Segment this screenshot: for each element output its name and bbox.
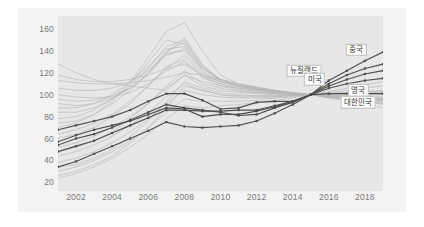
series-marker[interactable]	[328, 87, 330, 89]
series-marker[interactable]	[183, 125, 185, 127]
series-marker[interactable]	[382, 63, 383, 65]
series-marker[interactable]	[292, 103, 294, 105]
series-marker[interactable]	[364, 79, 366, 81]
series-marker[interactable]	[364, 60, 366, 62]
series-label-미국[interactable]: 미국	[304, 73, 325, 86]
series-marker[interactable]	[111, 124, 113, 126]
series-marker[interactable]	[58, 144, 59, 146]
series-marker[interactable]	[328, 79, 330, 81]
series-marker[interactable]	[256, 110, 258, 112]
series-marker[interactable]	[274, 112, 276, 114]
series-marker[interactable]	[165, 107, 167, 109]
y-tick-label: 20	[20, 178, 54, 187]
series-marker[interactable]	[201, 126, 203, 128]
series-marker[interactable]	[129, 137, 131, 139]
series-marker[interactable]	[147, 100, 149, 102]
series-marker[interactable]	[58, 129, 59, 131]
series-marker[interactable]	[147, 113, 149, 115]
x-tick-label: 2010	[211, 193, 231, 202]
series-marker[interactable]	[382, 51, 383, 53]
y-axis: 20406080100120140160	[16, 16, 54, 191]
series-marker[interactable]	[93, 129, 95, 131]
series-marker[interactable]	[111, 126, 113, 128]
series-label-대한민국[interactable]: 대한민국	[340, 96, 375, 109]
series-marker[interactable]	[93, 133, 95, 135]
series-marker[interactable]	[183, 93, 185, 95]
x-tick-label: 2004	[102, 193, 122, 202]
series-marker[interactable]	[93, 153, 95, 155]
series-marker[interactable]	[237, 113, 239, 115]
x-tick-label: 2016	[319, 193, 339, 202]
x-axis: 200220042006200820102012201420162018	[58, 193, 383, 209]
background-series-group	[58, 23, 383, 178]
series-marker[interactable]	[310, 94, 312, 96]
x-tick-label: 2006	[138, 193, 158, 202]
series-label-중국[interactable]: 중국	[346, 44, 367, 57]
series-marker[interactable]	[75, 160, 77, 162]
series-marker[interactable]	[147, 130, 149, 132]
series-marker[interactable]	[129, 120, 131, 122]
series-marker[interactable]	[183, 108, 185, 110]
series-label-영국[interactable]: 영국	[347, 84, 368, 97]
series-marker[interactable]	[147, 117, 149, 119]
series-marker[interactable]	[111, 116, 113, 118]
x-tick-label: 2018	[355, 193, 375, 202]
series-marker[interactable]	[75, 134, 77, 136]
series-marker[interactable]	[256, 120, 258, 122]
series-marker[interactable]	[201, 116, 203, 118]
series-marker[interactable]	[328, 85, 330, 87]
x-tick-label: 2012	[247, 193, 267, 202]
background-series-line	[58, 23, 383, 119]
series-marker[interactable]	[219, 110, 221, 112]
series-marker[interactable]	[346, 74, 348, 76]
series-marker[interactable]	[237, 109, 239, 111]
series-marker[interactable]	[364, 73, 366, 75]
series-marker[interactable]	[201, 110, 203, 112]
series-marker[interactable]	[219, 108, 221, 110]
series-marker[interactable]	[75, 124, 77, 126]
series-marker[interactable]	[58, 166, 59, 168]
series-marker[interactable]	[93, 120, 95, 122]
x-tick-label: 2008	[175, 193, 195, 202]
series-marker[interactable]	[58, 141, 59, 143]
series-marker[interactable]	[328, 93, 330, 95]
series-marker[interactable]	[165, 109, 167, 111]
series-line[interactable]	[58, 52, 383, 130]
series-marker[interactable]	[274, 100, 276, 102]
series-marker[interactable]	[111, 145, 113, 147]
series-marker[interactable]	[382, 77, 383, 79]
series-marker[interactable]	[147, 111, 149, 113]
series-marker[interactable]	[382, 93, 383, 95]
chart-root: 20406080100120140160 중국뉴질랜드미국영국대한민국 2002…	[0, 0, 424, 227]
series-marker[interactable]	[328, 83, 330, 85]
series-marker[interactable]	[201, 99, 203, 101]
series-line[interactable]	[58, 64, 383, 145]
series-marker[interactable]	[93, 140, 95, 142]
series-marker[interactable]	[165, 121, 167, 123]
series-marker[interactable]	[111, 132, 113, 134]
highlight-series-group	[58, 51, 383, 168]
series-marker[interactable]	[219, 125, 221, 127]
y-tick-label: 60	[20, 134, 54, 143]
series-marker[interactable]	[256, 101, 258, 103]
series-marker[interactable]	[346, 78, 348, 80]
series-marker[interactable]	[165, 103, 167, 105]
series-marker[interactable]	[346, 70, 348, 72]
series-marker[interactable]	[58, 151, 59, 153]
series-marker[interactable]	[129, 124, 131, 126]
series-marker[interactable]	[165, 93, 167, 95]
series-marker[interactable]	[219, 113, 221, 115]
series-marker[interactable]	[75, 137, 77, 139]
series-marker[interactable]	[292, 100, 294, 102]
series-marker[interactable]	[274, 106, 276, 108]
y-tick-label: 100	[20, 91, 54, 100]
series-marker[interactable]	[129, 109, 131, 111]
series-marker[interactable]	[75, 145, 77, 147]
series-marker[interactable]	[237, 124, 239, 126]
series-marker[interactable]	[382, 70, 383, 72]
series-marker[interactable]	[237, 107, 239, 109]
series-canvas	[58, 16, 383, 191]
y-tick-label: 160	[20, 25, 54, 34]
series-marker[interactable]	[256, 113, 258, 115]
series-marker[interactable]	[364, 67, 366, 69]
